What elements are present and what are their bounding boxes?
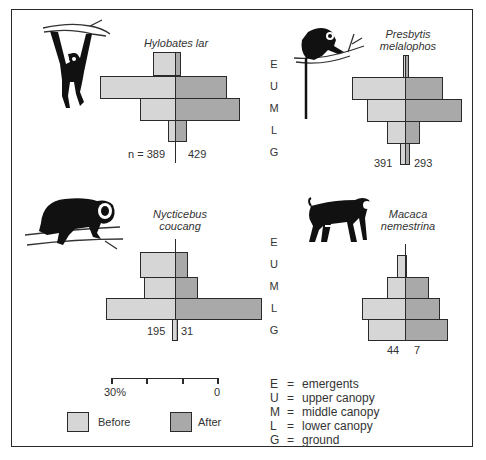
key-row-M: M=middle canopy bbox=[270, 405, 379, 419]
level-label-M-bottom: M bbox=[267, 280, 281, 292]
legend-swatch-after bbox=[170, 412, 192, 432]
n-before-presbytis: 391 bbox=[374, 157, 392, 169]
bar-hylobates-U-after bbox=[176, 76, 227, 99]
bar-macaca-G-after bbox=[406, 319, 448, 341]
legend-label-before: Before bbox=[98, 416, 130, 428]
scale-tick bbox=[217, 378, 219, 384]
center-axis-hylobates bbox=[175, 52, 176, 163]
level-label-E-top: E bbox=[267, 58, 281, 70]
bar-nycticebus-U-before bbox=[140, 252, 176, 278]
scale-tick bbox=[111, 378, 113, 384]
panel-title-macaca: Macaca nemestrina bbox=[358, 208, 458, 232]
bar-presbytis-L-before bbox=[387, 121, 406, 144]
level-label-G-bottom: G bbox=[267, 324, 281, 336]
n-before-nycticebus: 195 bbox=[147, 325, 165, 337]
bar-presbytis-U-after bbox=[406, 77, 443, 100]
scale-tick bbox=[146, 378, 148, 384]
bar-presbytis-M-before bbox=[367, 99, 406, 122]
level-label-M-top: M bbox=[267, 102, 281, 114]
n-after-hylobates: 429 bbox=[188, 148, 206, 160]
legend-swatch-before bbox=[67, 412, 89, 432]
bar-hylobates-E-after bbox=[176, 52, 181, 76]
panel-title-nycticebus: Nycticebus coucang bbox=[130, 208, 230, 232]
center-axis-macaca bbox=[405, 244, 406, 341]
key-row-L: L=lower canopy bbox=[270, 419, 379, 433]
level-label-E-bottom: E bbox=[267, 236, 281, 248]
n-after-nycticebus: 31 bbox=[181, 325, 193, 337]
bar-nycticebus-L-after bbox=[176, 298, 262, 320]
bar-nycticebus-M-before bbox=[144, 277, 176, 299]
n-before-hylobates: n = 389 bbox=[128, 148, 165, 160]
bar-nycticebus-M-after bbox=[176, 277, 198, 299]
level-label-L-bottom: L bbox=[267, 302, 281, 314]
n-after-presbytis: 293 bbox=[414, 157, 432, 169]
bar-presbytis-U-before bbox=[352, 77, 406, 100]
bar-macaca-L-before bbox=[362, 298, 406, 320]
percent-scale-bar bbox=[112, 378, 218, 385]
n-before-macaca: 44 bbox=[387, 344, 399, 356]
bar-macaca-L-after bbox=[406, 298, 440, 320]
bar-hylobates-M-before bbox=[140, 98, 176, 121]
bar-hylobates-L-after bbox=[176, 120, 187, 142]
bar-hylobates-E-before bbox=[153, 52, 176, 76]
key-row-G: G=ground bbox=[270, 433, 379, 447]
panel-title-presbytis: Presbytis melalophos bbox=[358, 28, 458, 52]
key-row-U: U=upper canopy bbox=[270, 391, 379, 405]
bar-nycticebus-L-before bbox=[106, 298, 176, 320]
center-axis-nycticebus bbox=[175, 239, 176, 319]
bar-presbytis-E-after bbox=[406, 55, 409, 78]
legend-label-after: After bbox=[198, 416, 221, 428]
n-after-macaca: 7 bbox=[414, 344, 420, 356]
slow-loris-icon bbox=[25, 195, 125, 250]
bar-nycticebus-G-after bbox=[176, 319, 178, 341]
gibbon-icon bbox=[40, 14, 112, 114]
level-label-G-top: G bbox=[267, 146, 281, 158]
scale-label-zero: 0 bbox=[214, 386, 220, 398]
key-row-E: E=emergents bbox=[270, 377, 379, 391]
bar-presbytis-M-after bbox=[406, 99, 462, 122]
bar-macaca-M-before bbox=[387, 277, 406, 299]
level-label-U-bottom: U bbox=[267, 258, 281, 270]
scale-label-max: 30% bbox=[104, 386, 126, 398]
bar-hylobates-M-after bbox=[176, 98, 240, 121]
bar-nycticebus-U-after bbox=[176, 252, 188, 278]
bar-presbytis-G-after bbox=[406, 143, 410, 165]
level-key: E=emergents U=upper canopy M=middle cano… bbox=[270, 377, 379, 447]
level-label-L-top: L bbox=[267, 124, 281, 136]
scale-tick bbox=[182, 378, 184, 384]
center-axis-presbytis bbox=[405, 55, 406, 165]
panel-title-hylobates: Hylobates lar bbox=[126, 37, 226, 49]
langur-icon bbox=[292, 24, 368, 120]
bar-presbytis-L-after bbox=[406, 121, 420, 144]
bar-macaca-G-before bbox=[368, 319, 406, 341]
bar-hylobates-U-before bbox=[100, 76, 176, 99]
level-label-U-top: U bbox=[267, 80, 281, 92]
bar-macaca-M-after bbox=[406, 277, 429, 299]
